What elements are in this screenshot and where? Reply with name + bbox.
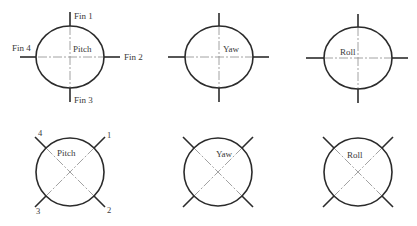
fin-top-right <box>382 137 393 148</box>
fin-1 <box>94 137 105 148</box>
plus-yaw-panel: Yaw <box>168 13 269 102</box>
fin-top-right <box>242 137 253 148</box>
fin-3-label: Fin 3 <box>74 95 93 105</box>
mode-label-roll: Roll <box>340 47 356 57</box>
fin-bottom-right <box>382 196 393 207</box>
cross-pitch-panel: 1 2 3 4 Pitch <box>35 128 111 216</box>
mode-label-pitch: Pitch <box>57 148 76 158</box>
fin-3-label: 3 <box>36 206 40 216</box>
mode-label-yaw: Yaw <box>216 149 233 159</box>
fin-2-label: 2 <box>107 205 111 215</box>
cross-yaw-panel: Yaw <box>183 137 253 207</box>
plus-roll-panel: Roll <box>306 14 408 103</box>
plus-pitch-panel: Fin 1 Fin 2 Fin 3 Fin 4 Pitch <box>12 11 143 105</box>
fin-2 <box>94 196 105 207</box>
fin-4-label: 4 <box>38 128 43 138</box>
fin-bottom-left <box>323 196 334 207</box>
fin-bottom-right <box>242 196 253 207</box>
fin-top-left <box>323 137 334 148</box>
mode-label-yaw: Yaw <box>223 44 240 54</box>
fin-bottom-left <box>183 196 194 207</box>
fin-1-label: 1 <box>107 130 111 140</box>
fin-configuration-diagram: Fin 1 Fin 2 Fin 3 Fin 4 Pitch Yaw Roll <box>0 0 417 226</box>
mode-label-pitch: Pitch <box>73 44 92 54</box>
fin-2-label: Fin 2 <box>124 52 143 62</box>
fin-top-left <box>183 137 194 148</box>
fin-4 <box>35 137 46 148</box>
fin-1-label: Fin 1 <box>74 11 93 21</box>
fin-4-label: Fin 4 <box>12 43 31 53</box>
cross-roll-panel: Roll <box>323 137 393 207</box>
mode-label-roll: Roll <box>347 150 363 160</box>
